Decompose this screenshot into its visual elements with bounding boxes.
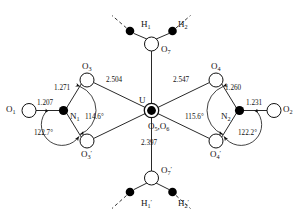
measure-N1-O3: 1.271 bbox=[54, 85, 70, 92]
label-O4p: O4′ bbox=[210, 150, 221, 159]
atom-U-core bbox=[147, 106, 156, 115]
bond-O7-H2 bbox=[155, 34, 169, 40]
label-U: U bbox=[139, 96, 146, 105]
measure-U-O4: 2.547 bbox=[173, 77, 189, 84]
atom-O4p bbox=[209, 134, 223, 148]
label-N1: N1 bbox=[70, 112, 80, 121]
atom-H2p bbox=[168, 188, 177, 197]
label-H2: H2 bbox=[178, 20, 188, 29]
bond-O7p-H1p bbox=[134, 183, 148, 190]
measure-N2-O4: 1.260 bbox=[225, 85, 241, 92]
atom-N1 bbox=[59, 106, 68, 115]
label-H2p: H2′ bbox=[178, 199, 189, 208]
label-H1p: H1′ bbox=[141, 199, 152, 208]
measure-angle-114-6: 114.6° bbox=[85, 114, 104, 121]
bond-O7-H1 bbox=[134, 34, 148, 40]
structure-canvas bbox=[0, 0, 303, 224]
measure-N1-O1: 1.207 bbox=[37, 100, 53, 107]
atom-H1p bbox=[126, 188, 135, 197]
label-O2: O2 bbox=[283, 105, 293, 114]
hbond-H1p-dashed bbox=[112, 196, 127, 209]
label-O3: O3 bbox=[82, 62, 92, 71]
label-O1: O1 bbox=[6, 105, 16, 114]
hbond-H1-dashed bbox=[112, 16, 127, 29]
atom-O1 bbox=[22, 104, 36, 118]
label-H1: H1 bbox=[141, 20, 151, 29]
atom-U bbox=[144, 103, 158, 117]
label-N2: N2 bbox=[221, 112, 231, 121]
atom-O3 bbox=[80, 73, 94, 87]
atom-O7 bbox=[145, 37, 159, 51]
atom-H2 bbox=[168, 27, 177, 36]
arc-114-6 bbox=[80, 87, 96, 135]
measure-angle-122-7: 122.7° bbox=[34, 130, 53, 137]
bond-U-O4 bbox=[152, 83, 210, 111]
measure-U-O7p: 2.397 bbox=[141, 140, 157, 147]
label-O7p: O7′ bbox=[161, 166, 172, 175]
atom-O4 bbox=[209, 73, 223, 87]
bond-O7p-H2p bbox=[155, 183, 169, 190]
measure-angle-122-2: 122.2° bbox=[238, 130, 257, 137]
label-O3p: O3′ bbox=[81, 150, 92, 159]
atom-O7p bbox=[145, 171, 159, 185]
label-O7: O7 bbox=[161, 45, 171, 54]
measure-angle-115-6: 115.6° bbox=[185, 114, 204, 121]
atom-H1 bbox=[126, 27, 135, 36]
label-O4: O4 bbox=[211, 62, 221, 71]
atom-N2 bbox=[235, 106, 244, 115]
measure-N2-O2: 1.231 bbox=[246, 100, 262, 107]
atom-O2 bbox=[267, 104, 281, 118]
measure-U-O3: 2.504 bbox=[106, 77, 122, 84]
atom-O3p bbox=[80, 134, 94, 148]
molecular-structure-figure: H1 H2 O7 O3 O3′ N1 O1 O4 O4′ N2 O2 U O5,… bbox=[0, 0, 303, 224]
label-O5-O6: O5,O6 bbox=[148, 122, 169, 131]
